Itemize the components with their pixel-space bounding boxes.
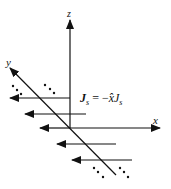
current-density-equation: Js = −x̂Js (80, 92, 122, 107)
y-axis (10, 68, 116, 175)
eq-sign: − (102, 91, 109, 105)
eq-equals: = (92, 91, 99, 105)
eq-rhs-subscript: s (119, 98, 122, 107)
current-sheet-diagram: z y x Js = −x̂Js (0, 0, 171, 189)
z-axis-label: z (67, 9, 71, 19)
x-axis-label: x (153, 115, 158, 126)
eq-lhs-subscript: s (86, 98, 89, 107)
y-axis-label: y (6, 57, 11, 68)
